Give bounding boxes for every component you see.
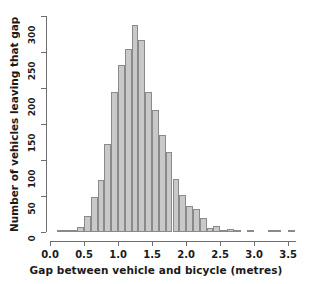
x-axis-tick bbox=[288, 241, 289, 246]
histogram-bar bbox=[173, 179, 180, 232]
x-axis-tick-label: 3.5 bbox=[279, 249, 297, 260]
histogram-bar bbox=[227, 229, 234, 232]
histogram-bar bbox=[111, 92, 118, 232]
histogram-bar bbox=[98, 180, 105, 232]
x-axis-tick bbox=[254, 241, 255, 246]
histogram-bar bbox=[84, 216, 91, 232]
histogram-bar bbox=[186, 206, 193, 232]
histogram-chart: 050100150200250300 0.00.51.01.52.02.53.0… bbox=[0, 0, 312, 284]
x-axis-tick bbox=[50, 241, 51, 246]
y-axis-tick-label: 50 bbox=[27, 202, 37, 215]
x-axis-tick bbox=[152, 241, 153, 246]
y-axis-tick-label: 150 bbox=[27, 133, 37, 152]
histogram-bar bbox=[132, 25, 139, 232]
y-axis-tick-label: 250 bbox=[27, 61, 37, 80]
x-axis-tick bbox=[220, 241, 221, 246]
x-axis-tick bbox=[118, 241, 119, 246]
y-axis-tick bbox=[41, 160, 46, 161]
histogram-bar bbox=[193, 209, 200, 232]
y-axis-tick-label: 100 bbox=[27, 169, 37, 188]
x-axis-tick-label: 2.5 bbox=[211, 249, 229, 260]
x-axis-tick-label: 0.0 bbox=[41, 249, 59, 260]
histogram-bar bbox=[268, 230, 275, 232]
x-axis-title: Gap between vehicle and bicycle (metres) bbox=[0, 264, 312, 276]
y-axis-tick bbox=[41, 88, 46, 89]
plot-area bbox=[50, 16, 295, 232]
x-axis-tick-label: 0.5 bbox=[75, 249, 93, 260]
y-axis-tick-label: 0 bbox=[27, 235, 37, 241]
y-axis-tick bbox=[41, 124, 46, 125]
y-axis-tick bbox=[41, 232, 46, 233]
histogram-bar bbox=[275, 230, 282, 232]
histogram-bar bbox=[77, 227, 84, 232]
histogram-bar bbox=[118, 65, 125, 232]
histogram-bar bbox=[125, 49, 132, 232]
y-axis-tick-label: 200 bbox=[27, 97, 37, 116]
histogram-bar bbox=[145, 92, 152, 232]
y-axis-tick-label: 300 bbox=[27, 25, 37, 44]
x-axis-tick bbox=[186, 241, 187, 246]
y-axis-title: Number of vehicles leaving that gap bbox=[6, 16, 22, 232]
x-axis-tick-label: 2.0 bbox=[177, 249, 195, 260]
x-axis-line bbox=[50, 241, 296, 242]
histogram-bar bbox=[138, 40, 145, 232]
histogram-bar bbox=[234, 230, 241, 232]
histogram-bar bbox=[207, 228, 214, 232]
histogram-bar bbox=[213, 226, 220, 232]
histogram-bar bbox=[179, 195, 186, 232]
histogram-bar bbox=[220, 230, 227, 232]
histogram-bar bbox=[166, 152, 173, 232]
histogram-bar bbox=[64, 230, 71, 232]
histogram-bar bbox=[247, 230, 254, 232]
histogram-bars bbox=[50, 16, 295, 232]
histogram-bar bbox=[57, 230, 64, 232]
histogram-bar bbox=[152, 110, 159, 232]
x-axis-tick bbox=[84, 241, 85, 246]
histogram-bar bbox=[200, 218, 207, 232]
y-axis-line bbox=[46, 16, 47, 232]
y-axis-tick bbox=[41, 52, 46, 53]
histogram-bar bbox=[288, 230, 295, 232]
y-axis-tick bbox=[41, 16, 46, 17]
histogram-bar bbox=[159, 135, 166, 232]
histogram-bar bbox=[70, 230, 77, 232]
x-axis-tick-label: 3.0 bbox=[245, 249, 263, 260]
histogram-bar bbox=[104, 144, 111, 232]
histogram-bar bbox=[91, 197, 98, 232]
x-axis-tick-label: 1.0 bbox=[109, 249, 127, 260]
y-axis-tick bbox=[41, 196, 46, 197]
x-axis-tick-label: 1.5 bbox=[143, 249, 161, 260]
